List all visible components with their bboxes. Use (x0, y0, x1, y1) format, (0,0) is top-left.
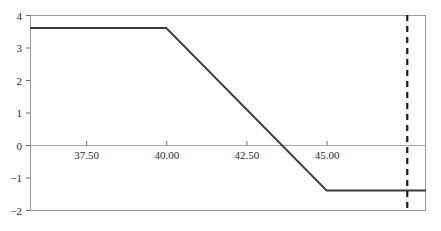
y-tick-label: 2 (17, 75, 23, 87)
chart-plot-area: 43210−1−2 37.5040.0042.5045.00 (0, 0, 441, 231)
y-tick-label: 4 (17, 10, 23, 22)
x-tick-label: 37.50 (74, 149, 99, 161)
y-tick-label: 3 (17, 42, 23, 54)
y-tick-label: 1 (17, 107, 23, 119)
x-tick-label: 40.00 (154, 149, 179, 161)
x-tick-label: 42.50 (235, 149, 260, 161)
plot-background (30, 15, 426, 210)
x-tick-label: 45.00 (315, 149, 340, 161)
chart-figure: 43210−1−2 37.5040.0042.5045.00 (0, 0, 441, 231)
y-tick-label: 0 (17, 140, 23, 152)
y-axis-tick-labels: 43210−1−2 (10, 10, 22, 217)
y-tick-label: −1 (10, 172, 22, 184)
y-tick-label: −2 (10, 205, 22, 217)
